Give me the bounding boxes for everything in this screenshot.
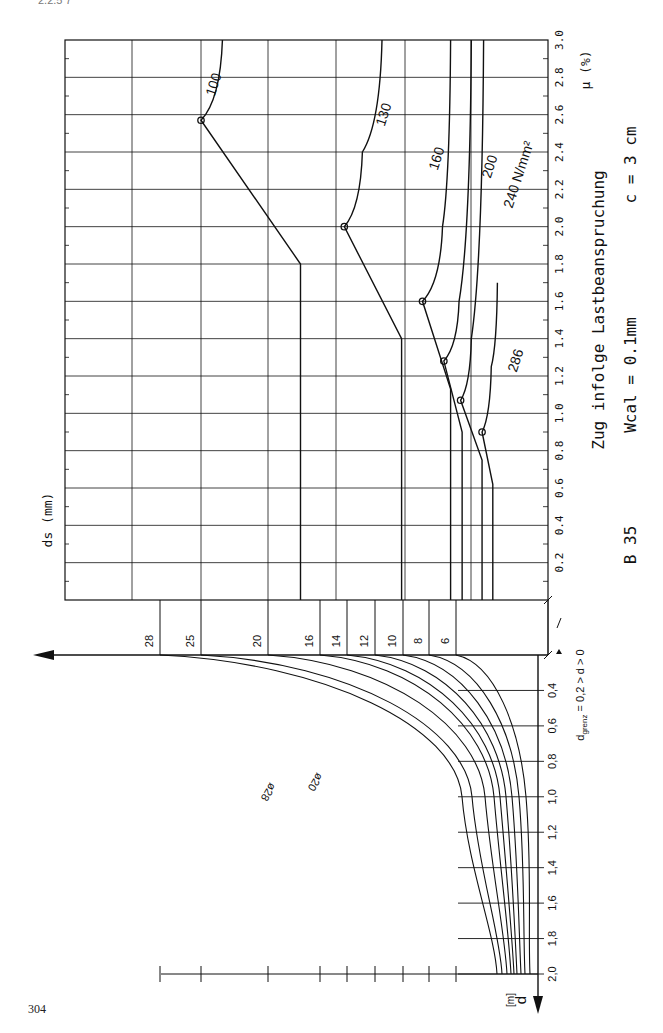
mu-tick-label: 1.6 (553, 291, 566, 311)
param-concrete: B 35 (621, 526, 640, 565)
ds-value-label: 16 (303, 635, 315, 647)
d-tick-label: 0,4 (546, 683, 558, 698)
d-tick-label: 0,8 (546, 754, 558, 769)
mu-tick-label: 2.2 (553, 179, 566, 199)
mu-tick-label: 2.0 (553, 217, 566, 237)
stress-curve-286 (482, 283, 497, 600)
mu-tick-label: 1.2 (553, 366, 566, 386)
mu-tick-label: 3.0 (553, 30, 566, 50)
mu-tick-label: 0.4 (553, 515, 566, 535)
d-tick-label: 1,0 (546, 789, 558, 804)
arrow-left-icon (33, 650, 54, 660)
ds-value-label: 12 (358, 635, 370, 647)
mu-tick-label: 2.8 (553, 67, 566, 87)
mu-tick-label: 0.6 (553, 478, 566, 498)
ds-value-label: 6 (439, 638, 451, 644)
mu-tick-label: 1.8 (553, 254, 566, 274)
d-tick-label: 1,8 (546, 931, 558, 946)
arrow-down-icon (533, 996, 543, 1014)
arrow-up-icon (556, 649, 562, 654)
ds-value-label: 20 (251, 635, 263, 647)
curve-label: 100 (202, 71, 225, 98)
mu-tick-label: 1.4 (553, 328, 566, 348)
d-curve-28 (160, 655, 497, 974)
d-tick-label: 0,6 (546, 718, 558, 733)
mu-tick-label: 0.2 (553, 553, 566, 573)
d-curve-25 (201, 655, 502, 974)
ds-value-label: 25 (184, 635, 196, 647)
param-wcal: Wcal = 0.1mm (621, 317, 640, 433)
mu-ds-grid: 0.20.40.60.81.01.21.41.61.82.02.22.42.62… (65, 30, 566, 600)
page-number: 304 (28, 1002, 46, 1017)
ds-value-label: 10 (386, 635, 398, 647)
d-curve-16 (320, 655, 511, 974)
d-curve-20 (268, 655, 507, 974)
ds-label-band: 2825201614121086 (33, 596, 562, 660)
mu-axis-label: μ (%) (578, 50, 593, 89)
mu-tick-label: 1.0 (553, 403, 566, 423)
stress-curve-240 (461, 40, 484, 600)
small-arrow (557, 618, 561, 628)
curve-label: 160 (425, 145, 448, 172)
d-tick-label: 1,2 (546, 825, 558, 840)
ds-value-label: 14 (330, 635, 342, 647)
curve-label: 240 N/mm² (500, 139, 537, 210)
mu-tick-label: 2.6 (553, 105, 566, 125)
mu-tick-label: 2.4 (553, 142, 566, 162)
curve-label: 286 (504, 347, 527, 374)
stress-curve-100 (201, 40, 301, 600)
chart-title: Zug infolge Lastbeanspruchung (589, 170, 608, 449)
phi28-label: ø28 (259, 781, 279, 803)
stress-curve-160 (423, 40, 451, 600)
d-axis-unit: [m] (505, 993, 516, 1007)
mu-tick-label: 0.8 (553, 441, 566, 461)
nomogram-chart: 0.20.40.60.81.01.21.41.61.82.02.22.42.62… (0, 0, 663, 1033)
ds-value-label: 28 (143, 635, 155, 647)
param-cover: c = 3 cm (621, 126, 640, 203)
d-tick-label: 1,4 (546, 860, 558, 875)
dgrenz-note: dgrenz = 0,2 > d > 0 (574, 649, 589, 740)
phi20-label: ø20 (306, 771, 326, 793)
ds-axis-label: ds (mm) (40, 493, 55, 548)
d-limit-curves: 0,40,60,81,01,21,41,61,82,0ø28ø20 (160, 655, 558, 1014)
stress-curve-200 (444, 40, 471, 600)
d-tick-label: 2,0 (546, 966, 558, 981)
stress-curves: 100130160200240 N/mm²286 (198, 40, 537, 600)
curve-label: 130 (372, 101, 395, 128)
grid-frame (65, 40, 548, 600)
ds-value-label: 8 (412, 638, 424, 644)
d-tick-label: 1,6 (546, 895, 558, 910)
